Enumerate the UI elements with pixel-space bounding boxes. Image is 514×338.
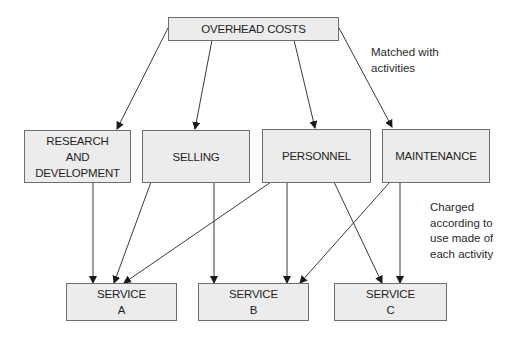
- activity-selling-box: SELLING: [142, 130, 250, 183]
- activity-label-line: AND: [66, 149, 90, 165]
- service-b-box: SERVICE B: [198, 283, 309, 321]
- overhead-costs-box: OVERHEAD COSTS: [168, 17, 339, 41]
- overhead-costs-label: OVERHEAD COSTS: [201, 21, 306, 37]
- activity-label-line: SELLING: [172, 149, 219, 165]
- service-label-line: C: [386, 302, 394, 318]
- matched-with-activities-note: Matched with activities: [371, 45, 439, 76]
- note-line: each activity: [430, 247, 493, 263]
- activity-label-line: MAINTENANCE: [395, 148, 477, 164]
- activity-personnel-box: PERSONNEL: [262, 129, 371, 183]
- service-label-line: B: [250, 302, 257, 318]
- service-label-line: SERVICE: [229, 286, 278, 302]
- service-c-box: SERVICE C: [334, 283, 447, 321]
- service-label-line: A: [118, 302, 125, 318]
- note-line: Matched with: [371, 45, 439, 61]
- activity-label-line: RESEARCH: [46, 133, 108, 149]
- activity-research-development-box: RESEARCH AND DEVELOPMENT: [24, 130, 131, 183]
- note-line: use made of: [430, 231, 493, 247]
- charged-according-note: Charged according to use made of each ac…: [430, 200, 493, 262]
- note-line: according to: [430, 216, 493, 232]
- activity-maintenance-box: MAINTENANCE: [382, 129, 490, 183]
- service-label-line: SERVICE: [97, 286, 146, 302]
- activity-label-line: DEVELOPMENT: [35, 165, 120, 181]
- service-a-box: SERVICE A: [66, 283, 177, 321]
- activity-label-line: PERSONNEL: [282, 148, 351, 164]
- service-label-line: SERVICE: [366, 286, 415, 302]
- note-line: Charged: [430, 200, 493, 216]
- note-line: activities: [371, 61, 439, 77]
